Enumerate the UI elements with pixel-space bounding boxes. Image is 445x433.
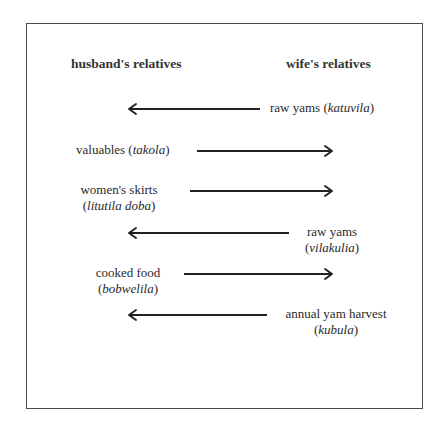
term-text: vilakulia	[309, 240, 355, 255]
label-cooked-food: cooked food (bobwelila)	[88, 265, 168, 297]
item-text: annual yam harvest	[273, 306, 399, 322]
paren-close: )	[165, 142, 169, 157]
item-text: valuables (	[76, 142, 133, 157]
item-text: women's skirts	[72, 182, 166, 198]
paren-close: )	[354, 322, 358, 337]
diagram-frame	[26, 23, 423, 409]
header-wifes-relatives: wife's relatives	[286, 56, 371, 72]
item-text: cooked food	[88, 265, 168, 281]
paren-close: )	[151, 198, 155, 213]
paren-close: )	[355, 240, 359, 255]
term-text: takola	[133, 142, 166, 157]
term-text: bobwelila	[102, 281, 153, 296]
term-text: kubula	[318, 322, 353, 337]
label-valuables-takola: valuables (takola)	[76, 142, 170, 158]
label-womens-skirts: women's skirts (litutila doba)	[72, 182, 166, 214]
term-text: litutila doba	[87, 198, 151, 213]
item-text: raw yams	[296, 224, 368, 240]
label-raw-yams-vilakulia: raw yams (vilakulia)	[296, 224, 368, 256]
label-raw-yams-katuvila: raw yams (katuvila)	[270, 100, 374, 116]
paren-close: )	[154, 281, 158, 296]
header-husbands-relatives: husband's relatives	[71, 56, 181, 72]
label-annual-yam-harvest: annual yam harvest (kubula)	[273, 306, 399, 338]
term-text: katuvila	[328, 100, 370, 115]
item-text: raw yams (	[270, 100, 328, 115]
paren-close: )	[370, 100, 374, 115]
